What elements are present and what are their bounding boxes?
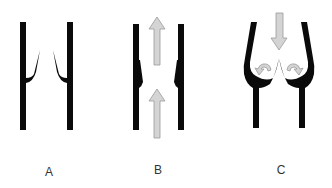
curved-arrow-right-icon [287, 64, 303, 75]
valve-diagram [0, 0, 332, 188]
panel-b-left-leaflet [139, 60, 143, 88]
panel-a-right-leaflet [53, 50, 67, 83]
panel-b-right-leaflet [174, 60, 178, 88]
panel-b-right-wall [178, 24, 184, 130]
panel-a-left-leaflet [26, 50, 40, 83]
panel-a-left-wall [20, 22, 26, 130]
panel-label-b: B [154, 163, 162, 177]
arrow-down-icon [271, 13, 287, 50]
panel-label-a: A [45, 165, 53, 179]
panel-b-left-wall [133, 24, 139, 130]
curved-arrow-left-icon [255, 64, 271, 75]
arrow-up-icon [149, 17, 165, 65]
panel-a-right-wall [67, 22, 73, 130]
panel-label-c: C [277, 163, 286, 177]
panel-b [133, 17, 184, 138]
panel-a [20, 22, 73, 130]
panel-c [244, 13, 315, 128]
arrow-up-icon [149, 89, 165, 138]
